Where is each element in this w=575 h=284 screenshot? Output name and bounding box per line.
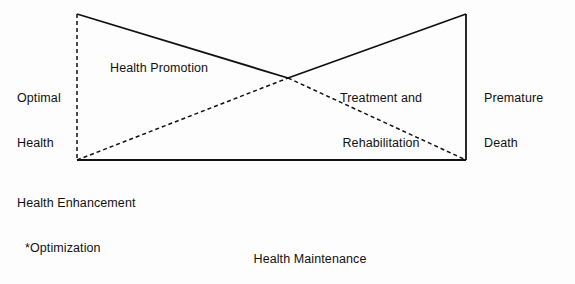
- label-optimal-health-line2: Health: [17, 136, 61, 151]
- label-health-maintenance-group: Health Maintenance *Risk Avoidance *Risk…: [215, 222, 405, 284]
- label-optimal-health: Optimal Health: [17, 61, 61, 181]
- label-health-enhancement-item-optimization: *Optimization: [17, 241, 136, 256]
- health-enhancement-dashed-line: [77, 78, 288, 160]
- label-health-maintenance-title: Health Maintenance: [215, 252, 405, 267]
- label-premature-line2: Death: [484, 136, 543, 151]
- label-treatment-and-rehabilitation: Treatment and Rehabilitation: [340, 61, 422, 181]
- label-health-enhancement-title: Health Enhancement: [17, 196, 136, 211]
- label-premature-death: Premature Death: [484, 61, 543, 181]
- label-treatment-line2: Rehabilitation: [340, 136, 422, 151]
- label-treatment-line1: Treatment and: [340, 91, 422, 106]
- label-health-enhancement-group: Health Enhancement *Optimization *Integr…: [17, 166, 136, 284]
- health-continuum-diagram: Optimal Health Health Promotion Treatmen…: [0, 0, 575, 284]
- label-premature-line1: Premature: [484, 91, 543, 106]
- label-health-promotion: Health Promotion: [110, 61, 208, 76]
- label-optimal-health-line1: Optimal: [17, 91, 61, 106]
